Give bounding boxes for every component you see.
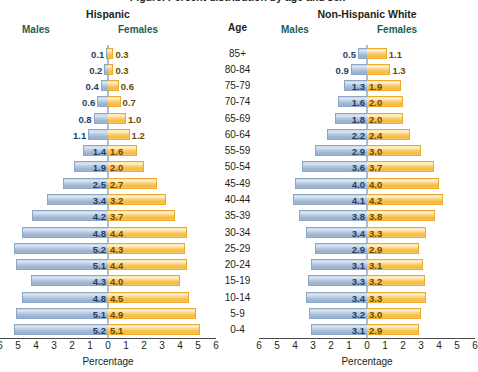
age-group-label: 25-29: [216, 240, 259, 256]
female-value-label: 2.7: [110, 179, 123, 190]
population-pyramid-figure: Hispanic Males Females 0.10.30.20.30.40.…: [0, 8, 475, 372]
age-column-title: Age: [216, 22, 259, 33]
female-half: 3.7: [108, 208, 216, 224]
x-axis-tick: 5: [454, 340, 460, 351]
pyramid-row: 1.11.2: [0, 126, 216, 142]
male-half: 1.6: [259, 94, 367, 110]
pyramid-row: 1.41.6: [0, 143, 216, 159]
age-group-label: 85+: [216, 45, 259, 61]
female-half: 3.0: [367, 143, 475, 159]
female-value-label: 2.0: [110, 162, 123, 173]
male-value-label: 1.3: [352, 81, 365, 92]
female-bar: 2.9: [367, 324, 419, 335]
bar-rows-hispanic: 0.10.30.20.30.40.60.60.70.81.01.11.21.41…: [0, 45, 216, 338]
pyramid-row: 2.52.7: [0, 175, 216, 191]
female-half: 3.7: [367, 159, 475, 175]
plot-area-non-hispanic-white: 0.51.10.91.31.31.91.62.01.82.02.22.42.93…: [259, 45, 475, 338]
female-bar: 4.0: [367, 178, 439, 189]
female-value-label: 2.9: [369, 325, 382, 336]
male-value-label: 3.8: [352, 211, 365, 222]
pyramid-panel-non-hispanic-white: Non-Hispanic White Males Females 0.51.10…: [259, 8, 475, 372]
female-value-label: 0.7: [120, 97, 136, 108]
x-axis-tick: 5: [15, 340, 21, 351]
age-group-label: 75-79: [216, 78, 259, 94]
male-half: 4.3: [0, 273, 108, 289]
male-value-label: 5.1: [93, 309, 106, 320]
x-axis-tick: 6: [256, 340, 262, 351]
male-bar: 3.1: [311, 324, 367, 335]
female-half: 4.9: [108, 305, 216, 321]
male-bar: 2.5: [63, 178, 108, 189]
male-bar: 0.9: [351, 64, 367, 75]
female-value-label: 0.3: [112, 65, 128, 76]
age-group-label: 65-69: [216, 110, 259, 126]
pyramid-row: 0.10.3: [0, 45, 216, 61]
pyramid-row: 3.43.3: [259, 289, 475, 305]
female-value-label: 2.9: [369, 244, 382, 255]
pyramid-row: 3.13.1: [259, 256, 475, 272]
male-value-label: 1.4: [93, 146, 106, 157]
female-half: 5.1: [108, 322, 216, 338]
female-bar: 2.0: [367, 96, 403, 107]
female-value-label: 4.9: [110, 309, 123, 320]
pyramid-row: 0.81.0: [0, 110, 216, 126]
male-half: 1.8: [259, 110, 367, 126]
male-bar: 4.8: [22, 292, 108, 303]
female-half: 0.6: [108, 78, 216, 94]
female-half: 3.1: [367, 256, 475, 272]
male-value-label: 0.2: [89, 65, 105, 76]
male-half: 4.0: [259, 175, 367, 191]
pyramid-panel-hispanic: Hispanic Males Females 0.10.30.20.30.40.…: [0, 8, 216, 372]
female-half: 4.2: [367, 191, 475, 207]
female-value-label: 0.6: [118, 81, 134, 92]
x-axis-hispanic: 6543210123456 Percentage: [0, 338, 216, 367]
female-value-label: 0.3: [112, 49, 128, 60]
female-value-label: 2.0: [369, 97, 382, 108]
male-half: 1.9: [0, 159, 108, 175]
female-half: 2.7: [108, 175, 216, 191]
female-bar: 4.4: [108, 227, 187, 238]
female-bar: 2.9: [367, 243, 419, 254]
male-value-label: 3.4: [93, 195, 106, 206]
male-half: 3.8: [259, 208, 367, 224]
male-half: 2.2: [259, 126, 367, 142]
female-value-label: 1.3: [389, 65, 405, 76]
male-bar: 0.4: [101, 80, 108, 91]
pyramid-row: 3.63.7: [259, 159, 475, 175]
x-axis-tick: 2: [400, 340, 406, 351]
x-axis-tick: 3: [159, 340, 165, 351]
female-half: 4.3: [108, 240, 216, 256]
female-bar: 4.0: [108, 275, 180, 286]
pyramid-row: 3.43.3: [259, 224, 475, 240]
male-half: 3.3: [259, 273, 367, 289]
male-value-label: 0.6: [82, 97, 98, 108]
x-axis-tick: 3: [310, 340, 316, 351]
pyramid-row: 1.62.0: [259, 94, 475, 110]
pyramid-row: 0.20.3: [0, 61, 216, 77]
male-half: 5.1: [0, 305, 108, 321]
male-half: 4.2: [0, 208, 108, 224]
female-bar: 2.7: [108, 178, 157, 189]
female-half: 4.4: [108, 224, 216, 240]
male-half: 0.1: [0, 45, 108, 61]
x-axis-tick: 4: [292, 340, 298, 351]
female-bar: 3.3: [367, 292, 426, 303]
male-bar: 3.4: [306, 227, 367, 238]
female-value-label: 3.1: [369, 260, 382, 271]
female-bar: 2.0: [108, 161, 144, 172]
x-axis-tick: 2: [69, 340, 75, 351]
female-value-label: 5.1: [110, 325, 123, 336]
female-value-label: 3.2: [369, 276, 382, 287]
pyramid-row: 5.24.3: [0, 240, 216, 256]
female-bar: 4.9: [108, 308, 196, 319]
x-axis-tick: 4: [33, 340, 39, 351]
female-half: 0.3: [108, 45, 216, 61]
male-value-label: 3.3: [352, 276, 365, 287]
female-bar: 1.1: [367, 48, 387, 59]
male-value-label: 3.4: [352, 293, 365, 304]
male-value-label: 1.8: [352, 114, 365, 125]
female-half: 4.5: [108, 289, 216, 305]
female-value-label: 1.6: [110, 146, 123, 157]
female-value-label: 1.1: [386, 49, 402, 60]
male-half: 2.9: [259, 143, 367, 159]
